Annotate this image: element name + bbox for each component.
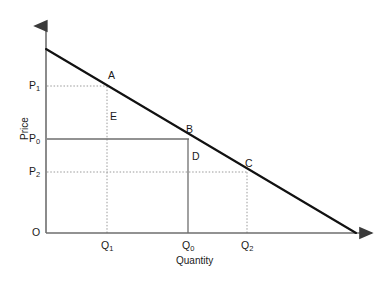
x-tick-label-q1: Q1	[101, 240, 113, 251]
y-tick-label-p2: P2	[29, 166, 40, 177]
y-tick-p0-main: P	[29, 132, 36, 144]
y-tick-p1-sub: 1	[36, 84, 40, 93]
demand-curve-chart: Price Quantity O P1 P0 P2 Q1 Q0 Q2 A B C…	[0, 0, 390, 281]
guide-lines-solid	[47, 139, 189, 233]
y-tick-p1-main: P	[29, 79, 36, 91]
x-tick-q2-main: Q	[241, 239, 249, 251]
point-label-d: D	[192, 151, 200, 162]
x-tick-q2-sub: 2	[249, 244, 253, 253]
x-tick-q1-main: Q	[101, 239, 109, 251]
point-label-a: A	[108, 70, 115, 81]
demand-curve-line	[46, 49, 356, 233]
chart-canvas	[0, 0, 390, 281]
y-tick-p0-sub: 0	[36, 137, 40, 146]
y-tick-label-p1: P1	[29, 80, 40, 91]
x-tick-q0-main: Q	[182, 239, 190, 251]
x-tick-q0-sub: 0	[190, 244, 194, 253]
x-tick-q1-sub: 1	[109, 244, 113, 253]
y-tick-label-p0: P0	[29, 133, 40, 144]
x-tick-label-q0: Q0	[182, 240, 194, 251]
point-label-c: C	[245, 158, 253, 169]
y-tick-p2-main: P	[29, 165, 36, 177]
point-label-e: E	[110, 111, 117, 122]
point-label-b: B	[186, 124, 193, 135]
y-tick-p2-sub: 2	[36, 170, 40, 179]
x-axis-title: Quantity	[176, 256, 213, 266]
x-tick-label-q2: Q2	[241, 240, 253, 251]
origin-label: O	[32, 227, 40, 238]
